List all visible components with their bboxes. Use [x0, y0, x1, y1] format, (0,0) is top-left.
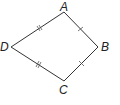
kite-shape	[11, 12, 98, 81]
kite-diagram: A B C D	[0, 0, 120, 105]
vertex-label-d: D	[0, 40, 9, 54]
vertex-label-c: C	[59, 83, 68, 97]
vertex-label-a: A	[59, 0, 68, 14]
vertex-label-b: B	[101, 40, 109, 54]
